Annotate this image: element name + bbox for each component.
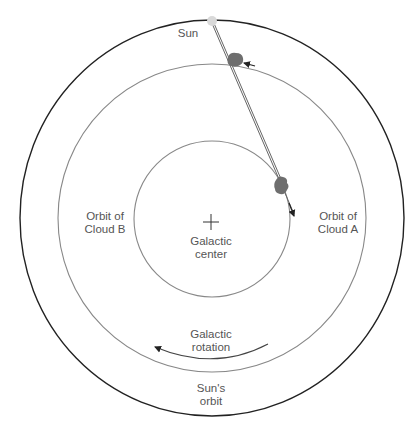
sun-label: Sun [178, 27, 198, 39]
galactic-center-icon [203, 214, 219, 230]
cloud-a-icon [227, 53, 243, 67]
orbit-cloud-a-label-line2: Cloud A [318, 223, 359, 235]
galactic-center-label-line1: Galactic [190, 235, 232, 247]
sun-orbit-label-line2: orbit [200, 395, 223, 407]
galactic-rotation-label-line1: Galactic [190, 328, 232, 340]
sun-icon [207, 16, 217, 26]
sun-orbit-label-line1: Sun's [197, 382, 226, 394]
orbit-cloud-b-label-line1: Orbit of [86, 210, 125, 222]
galactic-orbit-diagram: Sun Orbit of Cloud B Orbit of Cloud A Ga… [0, 0, 414, 441]
galactic-rotation-label-line2: rotation [192, 341, 230, 353]
orbit-cloud-b-label-line2: Cloud B [85, 223, 126, 235]
cloud-b-icon [274, 176, 288, 194]
cloud-a-velocity-arrow [244, 63, 255, 66]
orbit-cloud-a-label-line1: Orbit of [319, 210, 358, 222]
orbit-cloud-b [134, 141, 290, 297]
galactic-center-label-line2: center [195, 248, 227, 260]
